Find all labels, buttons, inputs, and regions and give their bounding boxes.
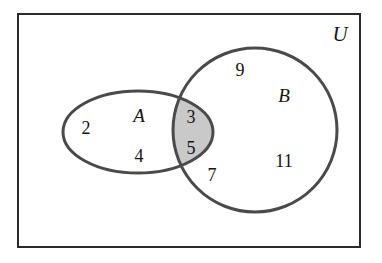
- venn-diagram-figure: U A B 24357911: [0, 0, 382, 263]
- element-number: 5: [187, 138, 196, 158]
- element-number: 4: [135, 146, 144, 166]
- element-number: 2: [82, 118, 91, 138]
- element-number: 3: [187, 107, 196, 127]
- set-a-label: A: [131, 105, 145, 126]
- element-number: 7: [208, 165, 217, 185]
- universal-set-label: U: [332, 22, 349, 46]
- element-number: 9: [236, 60, 245, 80]
- element-number: 11: [275, 151, 292, 171]
- venn-diagram-canvas: U A B 24357911: [0, 0, 382, 263]
- set-b-label: B: [278, 85, 290, 106]
